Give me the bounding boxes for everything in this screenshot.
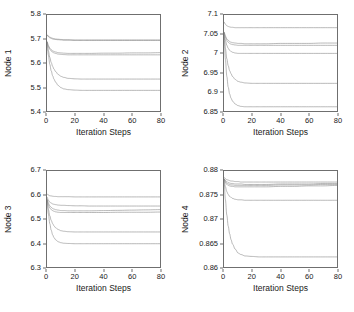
x-tick-label: 60: [305, 273, 313, 281]
x-tick-mark: [103, 113, 104, 116]
series-line: [47, 194, 160, 197]
x-tick-mark: [338, 269, 339, 272]
x-tick-label: 60: [128, 273, 136, 281]
x-axis-label-node1: Iteration Steps: [46, 128, 161, 137]
x-ticks-node1: 020406080: [46, 113, 161, 127]
x-tick-mark: [161, 269, 162, 272]
series-line: [224, 22, 337, 28]
x-tick-label: 80: [334, 117, 342, 125]
panel-node3: Node 3 6.36.46.56.66.7 020406080 Iterati…: [0, 156, 177, 312]
x-ticks-node3: 020406080: [46, 269, 161, 283]
panel-node4: Node 4 0.860.8650.870.8750.88 020406080 …: [177, 156, 354, 312]
y-ticks-node3: 6.36.46.56.66.7: [0, 170, 44, 268]
plot-lines-node4: [224, 171, 337, 267]
series-line: [224, 33, 337, 84]
x-tick-mark: [161, 113, 162, 116]
y-ticks-node4: 0.860.8650.870.8750.88: [177, 170, 221, 268]
x-tick-label: 20: [71, 117, 79, 125]
y-ticks-node1: 5.45.55.65.75.8: [0, 14, 44, 112]
x-tick-mark: [74, 113, 75, 116]
y-tick-label: 7.05: [203, 30, 218, 38]
x-tick-label: 40: [276, 273, 284, 281]
y-tick-label: 6.95: [203, 69, 218, 77]
y-tick-label: 6.85: [203, 108, 218, 116]
y-tick-label: 0.865: [199, 240, 218, 248]
panel-node1: Node 1 5.45.55.65.75.8 020406080 Iterati…: [0, 0, 177, 156]
x-tick-mark: [280, 113, 281, 116]
x-axis-label-node4: Iteration Steps: [223, 284, 338, 293]
x-tick-mark: [309, 113, 310, 116]
series-line: [47, 197, 160, 206]
y-tick-label: 5.5: [31, 84, 41, 92]
x-tick-mark: [223, 269, 224, 272]
x-tick-mark: [223, 113, 224, 116]
y-tick-label: 5.7: [31, 35, 41, 43]
figure-grid: Node 1 5.45.55.65.75.8 020406080 Iterati…: [0, 0, 354, 312]
y-tick-label: 0.86: [203, 264, 218, 272]
x-ticks-node4: 020406080: [223, 269, 338, 283]
series-line: [224, 177, 337, 182]
panel-node2: Node 2 6.856.96.9577.057.1 020406080 Ite…: [177, 0, 354, 156]
x-tick-label: 60: [305, 117, 313, 125]
x-tick-mark: [103, 269, 104, 272]
x-tick-label: 80: [157, 117, 165, 125]
y-tick-label: 6.5: [31, 215, 41, 223]
plot-lines-node3: [47, 171, 160, 267]
x-tick-mark: [251, 113, 252, 116]
x-tick-label: 40: [276, 117, 284, 125]
x-tick-label: 20: [248, 273, 256, 281]
x-tick-mark: [280, 269, 281, 272]
series-line: [47, 35, 160, 40]
x-tick-label: 20: [71, 273, 79, 281]
series-line: [47, 200, 160, 232]
y-tick-label: 5.4: [31, 108, 41, 116]
series-line: [224, 33, 337, 106]
x-tick-label: 0: [221, 117, 225, 125]
plot-area-node4: [223, 170, 338, 268]
x-tick-label: 20: [248, 117, 256, 125]
plot-lines-node2: [224, 15, 337, 111]
x-tick-label: 80: [334, 273, 342, 281]
y-tick-label: 6.6: [31, 191, 41, 199]
y-tick-label: 6.9: [208, 89, 218, 97]
x-axis-label-node2: Iteration Steps: [223, 128, 338, 137]
plot-lines-node1: [47, 15, 160, 111]
x-tick-label: 0: [221, 273, 225, 281]
x-tick-label: 80: [157, 273, 165, 281]
x-tick-mark: [46, 269, 47, 272]
y-ticks-node2: 6.856.96.9577.057.1: [177, 14, 221, 112]
plot-area-node2: [223, 14, 338, 112]
x-tick-mark: [309, 269, 310, 272]
series-line: [47, 41, 160, 53]
series-line: [47, 200, 160, 244]
y-tick-label: 0.875: [199, 191, 218, 199]
x-tick-mark: [132, 113, 133, 116]
series-line: [224, 180, 337, 257]
series-line: [47, 42, 160, 79]
x-axis-label-node3: Iteration Steps: [46, 284, 161, 293]
y-tick-label: 6.3: [31, 264, 41, 272]
series-line: [47, 42, 160, 90]
x-ticks-node2: 020406080: [223, 113, 338, 127]
x-tick-label: 40: [99, 117, 107, 125]
x-tick-label: 40: [99, 273, 107, 281]
x-tick-mark: [46, 113, 47, 116]
x-tick-label: 60: [128, 117, 136, 125]
x-tick-label: 0: [44, 273, 48, 281]
x-tick-mark: [132, 269, 133, 272]
x-tick-mark: [251, 269, 252, 272]
y-tick-label: 0.87: [203, 215, 218, 223]
y-tick-label: 5.8: [31, 10, 41, 18]
x-tick-label: 0: [44, 117, 48, 125]
plot-area-node3: [46, 170, 161, 268]
plot-area-node1: [46, 14, 161, 112]
y-tick-label: 6.4: [31, 240, 41, 248]
series-line: [47, 199, 160, 211]
y-tick-label: 7.1: [208, 10, 218, 18]
x-tick-mark: [74, 269, 75, 272]
x-tick-mark: [338, 113, 339, 116]
y-tick-label: 5.6: [31, 59, 41, 67]
series-line: [224, 32, 337, 44]
series-line: [224, 179, 337, 185]
y-tick-label: 7: [214, 49, 218, 57]
